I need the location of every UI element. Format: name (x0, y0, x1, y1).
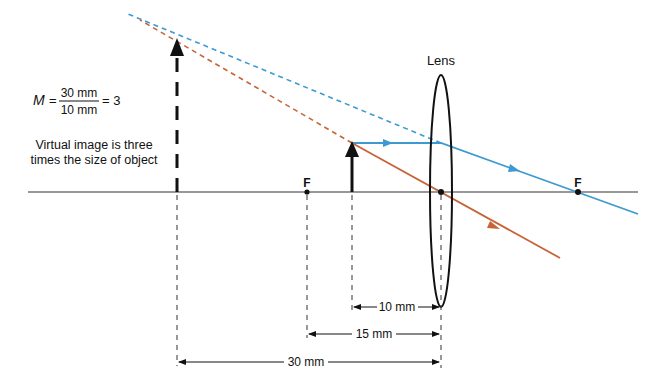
caption-line-1: Virtual image is three (35, 138, 152, 152)
focal-point-left (304, 189, 309, 194)
dim-30mm-label: 30 mm (288, 355, 325, 369)
caption-line-2: times the size of object (30, 153, 158, 167)
dim-15mm-label: 15 mm (356, 327, 393, 341)
formula-equals: = (49, 93, 57, 108)
lens-center-dot (438, 189, 444, 195)
orange-ray-virtual-extension (140, 20, 352, 143)
blue-ray-arrow-icon (383, 139, 393, 147)
blue-ray (352, 143, 638, 214)
lens-label: Lens (427, 53, 456, 68)
blue-ray-arrow-icon-2 (508, 164, 520, 172)
formula-numerator: 30 mm (61, 86, 98, 100)
blue-ray-virtual-extension (128, 14, 441, 143)
virtual-image-arrow-head-icon (170, 38, 184, 56)
dim-10mm-label: 10 mm (379, 300, 416, 314)
formula-result: = 3 (102, 93, 120, 108)
focal-label-left: F (303, 176, 310, 190)
formula-denominator: 10 mm (61, 103, 98, 117)
orange-ray (352, 143, 560, 258)
focal-label-right: F (574, 176, 581, 190)
magnifier-ray-diagram: 10 mm 15 mm 30 mm Lens F F M = 30 mm 10 … (0, 0, 658, 392)
formula-variable: M (33, 92, 45, 108)
